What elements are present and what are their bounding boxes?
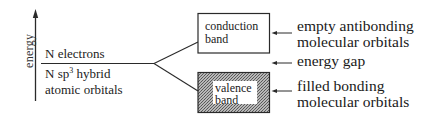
conduction-annotation-line2: molecular orbitals [297, 34, 409, 50]
hybrid-suffix: hybrid [73, 66, 110, 81]
conduction-annotation-line1: empty antibonding [297, 18, 414, 34]
valence-annotation-line2: molecular orbitals [297, 94, 409, 110]
conduction-band-label-line2: band [205, 33, 228, 46]
valence-annotation-line1: filled bonding [297, 78, 384, 94]
valence-annotation-arrow [272, 89, 293, 93]
split-line-down [154, 64, 198, 92]
valence-band-label-line2: band [215, 94, 238, 107]
hybrid-orbitals-label-line2: atomic orbitals [45, 82, 123, 98]
gap-annotation-arrow [272, 61, 293, 65]
energy-axis-label: energy [22, 34, 37, 68]
hybrid-orbitals-label-line1: N sp3 hybrid [45, 66, 110, 82]
conduction-annotation-arrow [272, 31, 293, 35]
split-line-up [154, 42, 198, 64]
n-electrons-label: N electrons [45, 46, 105, 62]
hybrid-prefix: N sp [45, 66, 69, 81]
energy-gap-annotation: energy gap [297, 53, 365, 69]
